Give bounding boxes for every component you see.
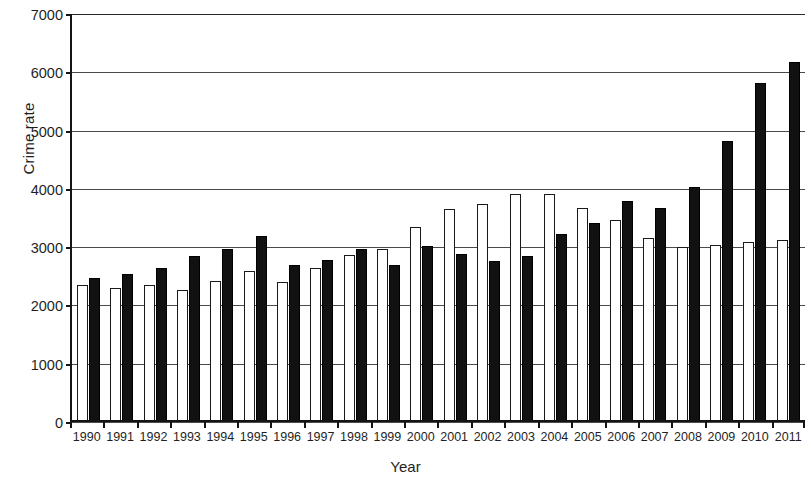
y-tick-label-5000: 5000 <box>31 124 63 140</box>
x-tick-label-1998: 1998 <box>337 430 370 444</box>
x-tick-mark-1993 <box>170 422 172 428</box>
bar-open-2007 <box>643 238 654 420</box>
bar-filled-2009 <box>722 141 733 420</box>
y-tick-label-2000: 2000 <box>31 298 63 314</box>
y-tick-label-7000: 7000 <box>31 7 63 23</box>
bar-open-1999 <box>377 249 388 420</box>
x-tick-1996: 1996 <box>270 422 303 446</box>
x-tick-2007: 2007 <box>638 422 671 446</box>
plot-area: 01000200030004000500060007000 <box>70 14 805 422</box>
bar-filled-1999 <box>389 265 400 420</box>
bar-open-1996 <box>277 282 288 420</box>
bar-group-2008 <box>672 14 705 420</box>
bar-group-1999 <box>372 14 405 420</box>
bar-open-2008 <box>677 247 688 420</box>
x-tick-mark-1991 <box>103 422 105 428</box>
bar-group-1997 <box>305 14 338 420</box>
x-tick-1995: 1995 <box>237 422 270 446</box>
bar-group-2011 <box>772 14 805 420</box>
x-tick-mark-2010 <box>738 422 740 428</box>
bar-open-2001 <box>444 209 455 420</box>
x-tick-2000: 2000 <box>404 422 437 446</box>
x-tick-2006: 2006 <box>605 422 638 446</box>
x-tick-label-1992: 1992 <box>137 430 170 444</box>
x-tick-2009: 2009 <box>705 422 738 446</box>
bar-filled-2004 <box>556 234 567 420</box>
bar-group-1991 <box>105 14 138 420</box>
x-tick-label-1995: 1995 <box>237 430 270 444</box>
x-tick-mark-end <box>803 422 805 428</box>
bar-open-2011 <box>777 240 788 420</box>
x-tick-1997: 1997 <box>304 422 337 446</box>
x-tick-label-2010: 2010 <box>738 430 771 444</box>
x-tick-1999: 1999 <box>371 422 404 446</box>
y-tick-label-0: 0 <box>55 415 63 431</box>
x-tick-2008: 2008 <box>671 422 704 446</box>
bar-open-1997 <box>310 268 321 420</box>
x-axis-title: Year <box>0 458 811 475</box>
x-tick-label-1994: 1994 <box>204 430 237 444</box>
bar-open-2003 <box>510 194 521 420</box>
bar-group-2006 <box>605 14 638 420</box>
bar-group-2010 <box>738 14 771 420</box>
bar-open-2010 <box>743 242 754 420</box>
bar-filled-1990 <box>89 278 100 420</box>
x-tick-2010: 2010 <box>738 422 771 446</box>
bar-filled-2005 <box>589 223 600 420</box>
x-tick-label-1993: 1993 <box>170 430 203 444</box>
x-tick-2002: 2002 <box>471 422 504 446</box>
bar-filled-1992 <box>156 268 167 420</box>
bar-group-1994 <box>205 14 238 420</box>
x-tick-label-2002: 2002 <box>471 430 504 444</box>
x-tick-label-1990: 1990 <box>70 430 103 444</box>
bar-filled-2000 <box>422 246 433 420</box>
bars-layer <box>72 14 805 420</box>
x-tick-mark-2002 <box>471 422 473 428</box>
x-tick-mark-1992 <box>137 422 139 428</box>
bar-group-2001 <box>438 14 471 420</box>
x-tick-mark-1994 <box>204 422 206 428</box>
y-tick-label-4000: 4000 <box>31 182 63 198</box>
x-tick-mark-1990 <box>70 422 72 428</box>
bar-group-1992 <box>139 14 172 420</box>
x-tick-label-2009: 2009 <box>705 430 738 444</box>
x-tick-mark-2005 <box>571 422 573 428</box>
x-tick-mark-1996 <box>270 422 272 428</box>
bar-group-1995 <box>239 14 272 420</box>
x-tick-mark-2011 <box>772 422 774 428</box>
x-tick-2001: 2001 <box>437 422 470 446</box>
x-tick-1991: 1991 <box>103 422 136 446</box>
bar-open-2009 <box>710 245 721 420</box>
bar-open-2000 <box>410 227 421 420</box>
bar-open-1991 <box>110 288 121 420</box>
bar-open-1990 <box>77 285 88 420</box>
bar-group-1990 <box>72 14 105 420</box>
x-tick-mark-2007 <box>638 422 640 428</box>
bar-filled-2008 <box>689 187 700 420</box>
bar-group-2000 <box>405 14 438 420</box>
bar-filled-1994 <box>222 249 233 420</box>
bar-open-2002 <box>477 204 488 420</box>
bar-filled-1998 <box>356 249 367 420</box>
bar-open-2006 <box>610 220 621 420</box>
x-tick-label-1996: 1996 <box>270 430 303 444</box>
x-axis-ticks: 1990199119921993199419951996199719981999… <box>70 422 805 446</box>
bar-filled-1997 <box>322 260 333 420</box>
bar-group-2004 <box>538 14 571 420</box>
bar-open-1993 <box>177 290 188 420</box>
x-tick-mark-2000 <box>404 422 406 428</box>
bar-filled-2011 <box>789 62 800 420</box>
x-tick-mark-2006 <box>605 422 607 428</box>
x-tick-2011: 2011 <box>772 422 805 446</box>
x-tick-label-2005: 2005 <box>571 430 604 444</box>
x-tick-2005: 2005 <box>571 422 604 446</box>
bar-group-2005 <box>572 14 605 420</box>
bar-group-1996 <box>272 14 305 420</box>
x-tick-mark-2001 <box>437 422 439 428</box>
x-tick-label-2006: 2006 <box>605 430 638 444</box>
bar-group-1998 <box>339 14 372 420</box>
y-tick-label-6000: 6000 <box>31 65 63 81</box>
bar-group-1993 <box>172 14 205 420</box>
x-tick-mark-1997 <box>304 422 306 428</box>
x-tick-label-2001: 2001 <box>437 430 470 444</box>
